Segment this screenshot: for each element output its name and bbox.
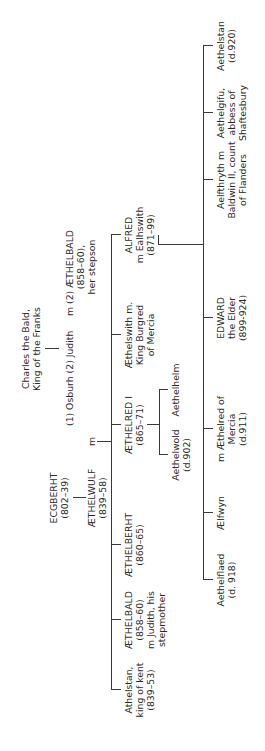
node-edward-the-elder: EDWARD the Elder (899-924) bbox=[215, 295, 248, 341]
stub-aethelberht bbox=[111, 544, 121, 545]
stub-aethelwold bbox=[159, 454, 168, 455]
wives-label: (1) Osburh (2) Judith bbox=[64, 331, 75, 426]
node-aethelhelm: Aethelhelm bbox=[170, 363, 181, 416]
node-aethelberht: ÆTHELBERHT (860–65) bbox=[123, 513, 145, 577]
stub-aelfthryth bbox=[203, 179, 213, 180]
node-aelfwyn: Ælfwyn bbox=[215, 496, 226, 530]
connector-charles-judith bbox=[45, 348, 59, 349]
node-aethelflaed: Aethelflaed (d. 918) bbox=[215, 554, 237, 607]
stub-athelstan bbox=[111, 689, 121, 690]
node-aethelbald: ÆTHELBALD (858–60) m Judith, his stepmot… bbox=[123, 591, 167, 649]
node-aethelwulf: ÆTHELWULF (839–58) bbox=[61, 469, 108, 527]
stub-aethelflaed bbox=[203, 579, 213, 580]
sibling-bar-aethelred-children bbox=[159, 389, 160, 455]
stub-aethelred-mercia bbox=[203, 428, 213, 429]
node-aethelwold: Aethelwold (d.902) bbox=[170, 429, 192, 481]
node-aethelbald-stepson: (2) ÆTHELBALD (858–60), her stepson bbox=[64, 230, 97, 304]
stub-aethelhelm bbox=[159, 389, 168, 390]
node-aethelred-of-mercia: m Æthelred of Mercia (d.911) bbox=[215, 396, 248, 462]
node-charles-the-bald: Charles the Bald, King of the Franks bbox=[20, 307, 42, 391]
marriage-marker: m bbox=[86, 437, 97, 446]
node-alfred: ALFRED m Ealhswith (871–99) bbox=[123, 207, 156, 264]
stub-aelfwyn bbox=[203, 512, 213, 513]
stub-edward bbox=[203, 317, 213, 318]
stub-alfred bbox=[111, 234, 121, 235]
node-aelfthryth: Aelfthryth m Baldwin II, count of Flande… bbox=[215, 141, 248, 218]
connector-aethelred-children bbox=[147, 424, 159, 425]
family-tree-diagram: ECGBERHT (802–39) Charles the Bald, King… bbox=[0, 0, 265, 751]
node-aethelred-i: ÆTHELRED I (865–71) bbox=[123, 396, 145, 454]
sibling-bar-aethelwulf-children bbox=[111, 234, 112, 690]
stub-aethelstan bbox=[203, 45, 213, 46]
node-aethelswith: Æthelswith m. King Burgred of Mercia bbox=[123, 302, 156, 368]
stub-aethelswith bbox=[111, 334, 121, 335]
judith-marriage-marker: m bbox=[64, 307, 75, 316]
node-aethelgifu: Aethelgifu, abbess of Shaftesbury bbox=[215, 85, 248, 141]
connector-alfred-elbow bbox=[158, 235, 159, 245]
connector-marriage bbox=[97, 441, 111, 442]
node-aethelstan-d920: Aethelstan (d.920) bbox=[215, 21, 237, 71]
connector-alfred-children bbox=[158, 244, 203, 245]
stub-aethelgifu bbox=[203, 112, 213, 113]
stub-aethelbald bbox=[111, 619, 121, 620]
node-athelstan-kent: Athelstan, king of kent (839–53) bbox=[123, 663, 156, 718]
stub-aethelred bbox=[111, 424, 121, 425]
sibling-bar-alfred-children bbox=[203, 45, 204, 580]
